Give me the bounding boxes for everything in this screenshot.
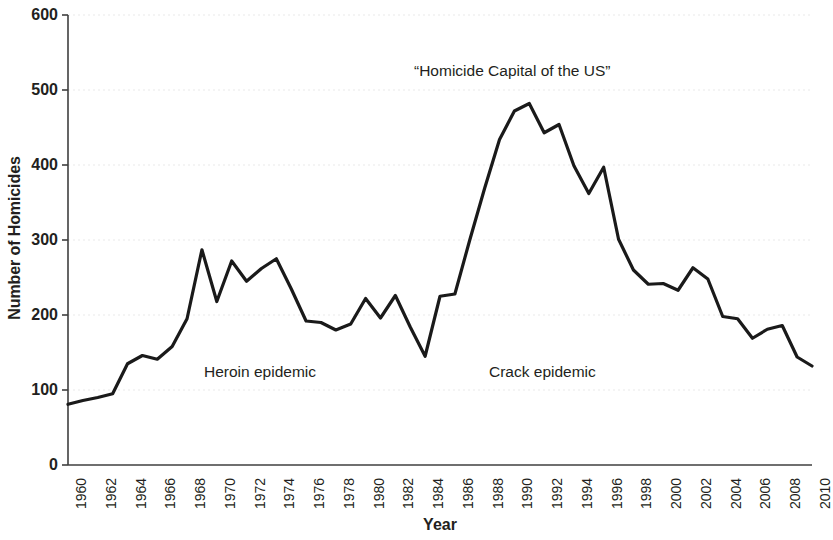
annotation-homicide-capital: “Homicide Capital of the US”	[414, 62, 610, 80]
y-tick-label: 100	[8, 381, 58, 399]
y-tick-marks-group	[62, 15, 68, 465]
x-tick-label: 2010	[818, 478, 832, 509]
x-tick-label: 1988	[491, 478, 505, 509]
x-tick-label: 1994	[580, 478, 594, 509]
x-tick-label: 2006	[758, 478, 772, 509]
x-tick-label: 1972	[253, 478, 267, 509]
annotation-crack-epidemic: Crack epidemic	[489, 363, 596, 381]
x-tick-label: 1964	[134, 478, 148, 509]
x-tick-label: 1990	[520, 478, 534, 509]
x-tick-label: 1966	[163, 478, 177, 509]
x-tick-label: 2002	[699, 478, 713, 509]
x-tick-label: 1992	[550, 478, 564, 509]
x-tick-label: 1978	[342, 478, 356, 509]
x-tick-label: 2000	[669, 478, 683, 509]
y-tick-label: 300	[8, 231, 58, 249]
x-tick-label: 1980	[372, 478, 386, 509]
y-tick-label: 400	[8, 156, 58, 174]
x-tick-label: 2008	[788, 478, 802, 509]
x-axis-title: Year	[68, 516, 812, 534]
x-tick-label: 1996	[610, 478, 624, 509]
annotation-heroin-epidemic: Heroin epidemic	[204, 363, 316, 381]
x-tick-label: 2004	[729, 478, 743, 509]
x-tick-label: 1984	[431, 478, 445, 509]
y-tick-label: 200	[8, 306, 58, 324]
x-tick-label: 1998	[639, 478, 653, 509]
x-tick-label: 1962	[104, 478, 118, 509]
x-tick-label: 1976	[312, 478, 326, 509]
x-tick-label: 1986	[461, 478, 475, 509]
y-tick-label: 0	[8, 456, 58, 474]
x-tick-label: 1974	[282, 478, 296, 509]
homicide-series-line	[68, 104, 812, 405]
x-tick-label: 1960	[74, 478, 88, 509]
y-tick-label: 600	[8, 6, 58, 24]
y-tick-label: 500	[8, 81, 58, 99]
x-tick-label: 1970	[223, 478, 237, 509]
x-tick-label: 1968	[193, 478, 207, 509]
x-tick-label: 1982	[401, 478, 415, 509]
